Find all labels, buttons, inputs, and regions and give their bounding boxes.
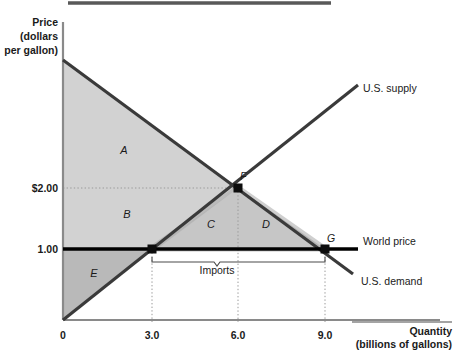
region-c-label: C — [207, 218, 215, 230]
economics-supply-demand-figure: Price (dollars per gallon) Quantity (bil… — [0, 0, 470, 361]
imports-label: Imports — [199, 264, 234, 276]
y-axis-title-line-2: (dollars — [20, 30, 58, 42]
y-tick-label-100: 1.00 — [38, 243, 59, 255]
chart-canvas: Price (dollars per gallon) Quantity (bil… — [0, 0, 470, 361]
region-b-label: B — [123, 208, 130, 220]
region-e-label: E — [90, 267, 98, 279]
point-f-label: F — [240, 170, 247, 182]
point-supply-world-marker — [148, 245, 157, 254]
x-axis-title-line-1: Quantity — [409, 325, 452, 337]
y-tick-label-200: $2.00 — [32, 182, 58, 194]
point-f-marker — [234, 184, 243, 193]
us-demand-label: U.S. demand — [361, 275, 422, 287]
point-g-marker — [321, 245, 330, 254]
us-supply-label: U.S. supply — [363, 82, 417, 94]
y-axis-title-line-1: Price — [32, 16, 58, 28]
x-tick-label-6: 6.0 — [231, 329, 246, 341]
world-price-label: World price — [363, 235, 416, 247]
x-tick-label-3: 3.0 — [145, 329, 160, 341]
region-d-label: D — [262, 218, 270, 230]
x-tick-label-9: 9.0 — [318, 329, 333, 341]
region-a-label: A — [119, 144, 127, 156]
point-g-label: G — [327, 232, 335, 244]
y-axis-title-line-3: per gallon) — [4, 44, 58, 56]
x-axis-title-line-2: (billions of gallons) — [356, 338, 452, 350]
x-tick-label-0: 0 — [60, 329, 66, 341]
